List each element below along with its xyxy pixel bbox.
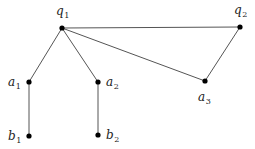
edge-q1-a2 — [62, 28, 98, 82]
node-b1 — [26, 133, 31, 138]
nodes — [26, 24, 242, 138]
labels: q1q2a1a2a3b1b2 — [8, 3, 247, 145]
edges — [29, 27, 240, 136]
node-b2 — [95, 132, 100, 137]
node-q2 — [237, 24, 242, 29]
label-b1: b1 — [8, 129, 21, 145]
edge-q2-a3 — [205, 27, 240, 81]
label-b2: b2 — [106, 128, 119, 144]
edge-q1-q2 — [62, 27, 240, 28]
node-a1 — [26, 79, 31, 84]
node-a3 — [202, 78, 207, 83]
edge-q1-a1 — [29, 28, 62, 82]
label-q2: q2 — [234, 3, 247, 19]
label-a1: a1 — [8, 75, 21, 91]
edge-q1-a3 — [62, 28, 205, 81]
label-a2: a2 — [106, 75, 119, 91]
graph-diagram: q1q2a1a2a3b1b2 — [0, 0, 255, 149]
node-q1 — [59, 25, 64, 30]
label-a3: a3 — [198, 90, 211, 106]
label-q1: q1 — [56, 4, 69, 20]
node-a2 — [95, 79, 100, 84]
